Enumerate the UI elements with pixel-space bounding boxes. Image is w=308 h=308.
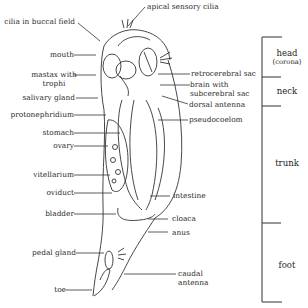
rotifer-diagram: cilia in buccal field mouth mastax with … bbox=[0, 0, 308, 308]
label-mouth: mouth bbox=[50, 51, 74, 60]
label-stomach: stomach bbox=[42, 129, 74, 138]
label-brain: brain with subcerebral sac bbox=[190, 81, 249, 98]
label-protonephridium: protonephridium bbox=[10, 111, 74, 120]
label-pedal-gland: pedal gland bbox=[32, 249, 76, 258]
rotifer-body-drawing bbox=[0, 0, 308, 308]
region-trunk: trunk bbox=[266, 158, 308, 168]
label-cilia-buccal-field: cilia in buccal field bbox=[4, 18, 75, 27]
label-bladder: bladder bbox=[45, 210, 74, 219]
label-brain-line2: subcerebral sac bbox=[190, 90, 249, 99]
label-caudal-antenna: caudal antenna bbox=[178, 270, 208, 287]
label-oviduct: oviduct bbox=[46, 189, 74, 198]
label-retrocerebral-sac: retrocerebral sac bbox=[191, 70, 256, 79]
region-neck: neck bbox=[266, 86, 308, 96]
region-foot: foot bbox=[266, 260, 308, 270]
label-salivary-gland: salivary gland bbox=[22, 94, 75, 103]
region-head: head (corona) bbox=[266, 48, 308, 66]
label-ovary: ovary bbox=[53, 142, 74, 151]
label-vitellarium: vitellarium bbox=[33, 171, 74, 180]
label-pseudocoelom: pseudocoelom bbox=[189, 116, 243, 125]
region-head-sublabel: (corona) bbox=[266, 58, 308, 66]
label-mastax: mastax with trophi bbox=[28, 71, 80, 88]
label-intestine: intestine bbox=[173, 192, 206, 201]
label-cloaca: cloaca bbox=[172, 215, 196, 224]
label-caudal-line2: antenna bbox=[178, 279, 208, 288]
label-toe: toe bbox=[54, 286, 66, 295]
label-dorsal-antenna: dorsal antenna bbox=[189, 101, 245, 110]
label-apical-sensory-cilia: apical sensory cilia bbox=[147, 3, 219, 12]
label-anus: anus bbox=[172, 229, 190, 238]
region-head-label: head bbox=[276, 48, 297, 58]
label-mastax-line2: trophi bbox=[28, 80, 80, 89]
